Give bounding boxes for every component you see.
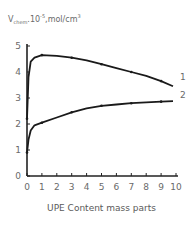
x-tick-label: 8 [143, 182, 149, 192]
x-tick-label: 3 [69, 182, 75, 192]
series-lines [26, 54, 173, 154]
x-tick-label: 2 [54, 182, 60, 192]
x-tick-label: 0 [24, 182, 30, 192]
x-tick-label: 4 [84, 182, 90, 192]
x-tick-label: 9 [158, 182, 164, 192]
data-point-marker [26, 151, 29, 154]
data-point-marker [26, 118, 29, 121]
data-point-marker [70, 56, 73, 59]
x-tick-label: 5 [99, 182, 105, 192]
data-point-marker [41, 54, 44, 57]
data-point-marker [100, 63, 103, 66]
series-1-line [27, 55, 173, 119]
data-point-marker [100, 105, 103, 108]
x-axis-title: UPE Content mass parts [0, 203, 195, 213]
x-tick-label: 10 [170, 182, 182, 192]
curve-labels: 12 [180, 72, 186, 100]
data-point-marker [130, 71, 133, 74]
x-tick-label: 1 [39, 182, 45, 192]
y-tick-label: 4 [15, 67, 21, 77]
x-tick-label: 6 [114, 182, 120, 192]
curve-label-1: 1 [180, 72, 186, 82]
data-point-marker [160, 80, 163, 83]
data-point-marker [160, 100, 163, 103]
data-point-marker [130, 102, 133, 105]
line-chart: 012345678910012345 12 [0, 0, 195, 228]
x-tick-label: 7 [128, 182, 134, 192]
y-tick-label: 1 [15, 145, 21, 155]
y-tick-label: 0 [15, 171, 21, 181]
series-2-line [27, 101, 173, 153]
curve-label-2: 2 [180, 90, 186, 100]
data-point-marker [70, 111, 73, 114]
y-tick-label: 3 [15, 93, 21, 103]
y-tick-label: 5 [15, 41, 21, 51]
data-point-marker [41, 121, 44, 124]
y-tick-label: 2 [15, 119, 21, 129]
